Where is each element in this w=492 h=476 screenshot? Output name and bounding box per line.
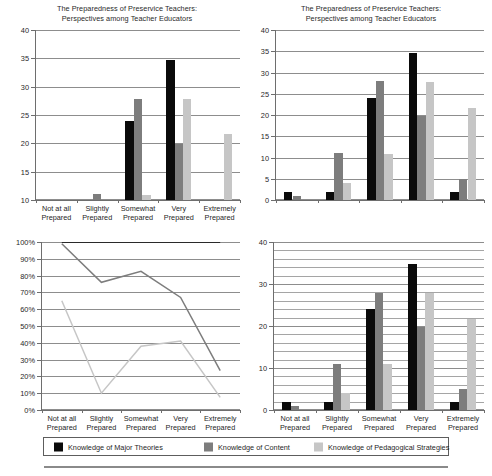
legend-item[interactable]: Knowledge of Pedagogical Strategies <box>314 442 449 451</box>
y-tick-label: 40 <box>261 26 269 35</box>
y-tick-label: 10 <box>259 364 267 373</box>
y-tick-label: 10% <box>20 389 35 398</box>
bar <box>450 402 459 410</box>
y-tick-label: 20 <box>261 111 269 120</box>
chart-panel-top-right: The Preparedness of Preservice Teachers:… <box>252 4 490 236</box>
plot-area-bottom-right: 010203040Not at allPreparedSlightlyPrepa… <box>252 236 490 426</box>
x-tick-label: ExtremelyPrepared <box>204 414 236 433</box>
y-tick <box>269 410 273 411</box>
gridline-major <box>276 30 484 31</box>
legend-item[interactable]: Knowledge of Content <box>204 442 290 451</box>
x-tick-label: SomewhatPrepared <box>124 414 158 433</box>
y-tick <box>271 115 275 116</box>
bar <box>375 293 384 410</box>
bar <box>425 293 434 410</box>
gridline-minor <box>274 259 484 260</box>
x-tick <box>118 200 119 203</box>
x-tick-label: SomewhatPrepared <box>362 414 396 433</box>
y-tick <box>31 200 35 201</box>
y-tick-label: 10 <box>21 196 29 205</box>
x-tick <box>240 200 241 203</box>
y-tick <box>271 136 275 137</box>
y-tick <box>271 200 275 201</box>
bar <box>417 327 426 410</box>
bar <box>125 121 133 200</box>
y-axis-line <box>35 30 36 201</box>
y-tick <box>269 326 273 327</box>
y-tick-label: 0 <box>263 406 267 415</box>
legend-label: Knowledge of Pedagogical Strategies <box>328 442 449 451</box>
chart-title-line-2: Perspectives among Teacher Educators <box>62 14 193 23</box>
bar <box>224 134 232 200</box>
x-tick <box>158 200 159 203</box>
bar <box>183 99 191 200</box>
y-tick <box>37 393 41 394</box>
legend-swatch-icon <box>54 442 63 451</box>
y-tick <box>31 30 35 31</box>
x-tick <box>276 200 277 203</box>
gridline-major <box>276 73 484 74</box>
chart-title-top-left: The Preparedness of Preservice Teachers:… <box>8 4 246 23</box>
chart-title-line-1: The Preparedness of Preservice Teachers: <box>301 4 441 13</box>
y-tick <box>37 360 41 361</box>
x-tick-label: SomewhatPrepared <box>121 204 155 223</box>
x-tick <box>442 200 443 203</box>
y-tick-label: 40% <box>20 338 35 347</box>
chart-title-line-2: Perspectives among Teacher Educators <box>306 14 437 23</box>
y-tick <box>31 143 35 144</box>
plot-frame <box>274 242 484 410</box>
x-tick <box>442 410 443 413</box>
x-tick-label: VeryPrepared <box>406 414 436 433</box>
chart-legend: Knowledge of Major TheoriesKnowledge of … <box>43 437 449 456</box>
y-tick-label: 60% <box>20 305 35 314</box>
x-tick <box>240 410 241 413</box>
bar <box>467 319 476 410</box>
chart-panel-bottom-right: 010203040Not at allPreparedSlightlyPrepa… <box>252 236 490 426</box>
y-tick <box>37 276 41 277</box>
x-tick <box>484 200 485 203</box>
bar <box>343 183 352 200</box>
legend-label: Knowledge of Content <box>218 442 290 451</box>
bar <box>366 309 375 410</box>
x-tick-label: SlightlyPrepared <box>322 414 352 433</box>
x-tick <box>318 200 319 203</box>
y-tick <box>271 179 275 180</box>
y-tick-label: 40 <box>21 26 29 35</box>
y-tick <box>31 172 35 173</box>
x-tick-label: VeryPrepared <box>164 204 194 223</box>
bar <box>459 179 468 200</box>
y-tick-label: 80% <box>20 271 35 280</box>
bar <box>384 154 393 200</box>
bar <box>324 402 333 410</box>
y-tick <box>37 259 41 260</box>
x-tick <box>36 200 37 203</box>
bar <box>341 393 350 410</box>
gridline-major <box>276 51 484 52</box>
plot-area-top-left: 10152025303540Not at allPreparedSlightly… <box>8 28 246 233</box>
y-tick <box>271 51 275 52</box>
y-tick-label: 50% <box>20 322 35 331</box>
line-series-group <box>42 242 240 410</box>
line-series <box>62 301 220 398</box>
gridline-major <box>274 242 484 243</box>
bar <box>284 192 293 201</box>
x-axis-line <box>273 410 485 411</box>
y-tick <box>271 30 275 31</box>
figure-page: The Preparedness of Preservice Teachers:… <box>0 0 492 476</box>
bar <box>426 82 435 200</box>
y-tick <box>271 94 275 95</box>
bar <box>468 108 477 200</box>
y-tick-label: 25 <box>261 89 269 98</box>
x-tick-label: SlightlyPrepared <box>86 414 116 433</box>
y-tick-label: 0 <box>265 196 269 205</box>
y-tick <box>271 158 275 159</box>
y-tick-label: 40 <box>259 238 267 247</box>
y-tick-label: 30 <box>21 82 29 91</box>
y-tick-label: 15 <box>21 167 29 176</box>
x-tick-label: Not at allPrepared <box>47 414 77 433</box>
x-tick <box>82 410 83 413</box>
y-tick <box>31 58 35 59</box>
legend-item[interactable]: Knowledge of Major Theories <box>54 442 163 451</box>
x-axis-line <box>275 200 485 201</box>
y-tick-label: 5 <box>265 174 269 183</box>
